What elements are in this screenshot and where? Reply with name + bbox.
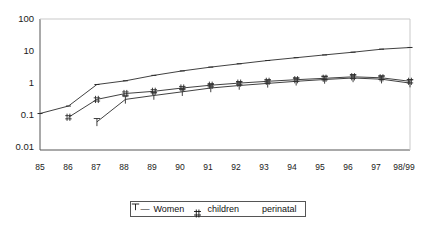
legend-item-women: — Women <box>140 204 185 214</box>
legend-item-perinatal: perinatal <box>248 204 297 214</box>
legend-label-children: children <box>207 204 239 214</box>
legend-label-women: Women <box>154 204 185 214</box>
plot-area <box>0 0 428 233</box>
dash-marker-icon: — <box>140 205 151 214</box>
series-women <box>38 47 413 113</box>
legend-item-children: children <box>193 204 239 214</box>
log-line-chart: 100 10 1 0.1 0.01 85 86 87 88 89 90 91 9… <box>0 0 428 233</box>
legend-label-perinatal: perinatal <box>262 204 297 214</box>
series-children <box>65 73 413 121</box>
chart-legend: — Women children perinatal <box>130 201 306 217</box>
